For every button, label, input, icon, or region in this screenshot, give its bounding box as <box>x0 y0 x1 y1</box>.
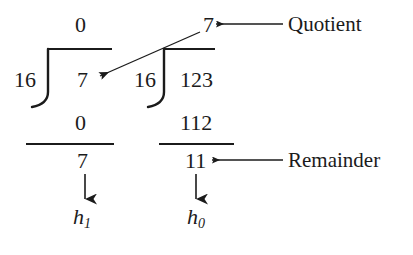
left-result-variable-subscript: 1 <box>84 216 91 231</box>
left-product-value: 0 <box>75 112 86 134</box>
left-result-variable: h1 <box>73 206 91 231</box>
left-remainder-value: 7 <box>77 150 88 172</box>
right-dividend-value: 123 <box>180 69 213 91</box>
right-subtraction-rule <box>159 143 234 145</box>
left-division-bracket-icon <box>32 49 112 107</box>
division-diagram: 0 16 7 0 7 h1 7 16 123 112 11 h0 Quotien… <box>0 0 413 255</box>
right-result-variable-subscript: 0 <box>198 216 205 231</box>
left-dividend-value: 7 <box>77 69 88 91</box>
right-divisor-value: 16 <box>134 69 156 91</box>
right-remainder-value: 11 <box>185 150 206 172</box>
quotient-annotation-label: Quotient <box>288 14 362 35</box>
left-result-variable-base: h <box>73 204 84 229</box>
remainder-annotation-label: Remainder <box>288 150 380 171</box>
right-product-value: 112 <box>180 112 212 134</box>
left-divisor-value: 16 <box>14 69 36 91</box>
right-result-variable: h0 <box>187 206 205 231</box>
right-quotient-value: 7 <box>203 14 214 36</box>
left-subtraction-rule <box>26 143 114 145</box>
left-quotient-value: 0 <box>75 14 86 36</box>
right-result-variable-base: h <box>187 204 198 229</box>
